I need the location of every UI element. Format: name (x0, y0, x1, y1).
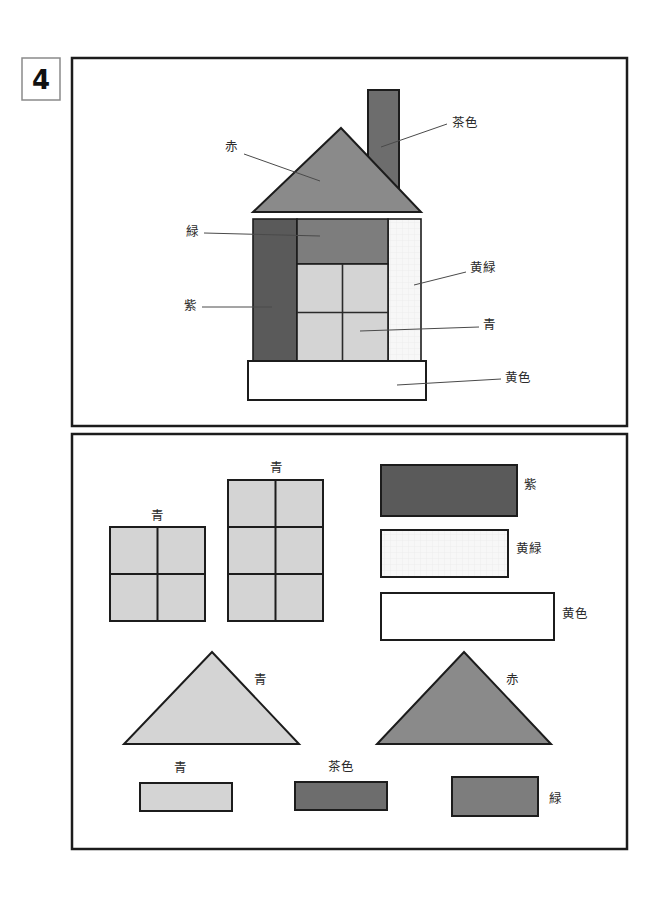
part-rect-purple (381, 465, 517, 516)
worksheet-canvas: 4 赤 (0, 0, 649, 906)
label-rect-green-small: 緑 (549, 791, 562, 806)
question-number-text: 4 (32, 65, 50, 95)
label-rect-purple: 紫 (524, 477, 537, 492)
part-rect-brown-small (295, 782, 387, 810)
label-rect-yellow: 黄色 (562, 606, 588, 621)
label-window-2x2-small: 青 (151, 508, 164, 523)
house-part-left-wall-purple (253, 219, 297, 361)
part-window-2x3-tall (228, 480, 323, 621)
house-part-right-wall-yellowgreen (388, 219, 421, 361)
label-brown: 茶色 (452, 115, 478, 130)
label-purple: 紫 (184, 298, 197, 313)
label-green: 緑 (186, 224, 199, 239)
label-triangle-blue: 青 (254, 672, 267, 687)
label-window-2x3-tall: 青 (270, 460, 283, 475)
question-number-box: 4 (22, 58, 60, 100)
label-yellowgreen: 黄緑 (470, 260, 496, 275)
house-part-upper-wall-green (297, 219, 388, 264)
label-rect-yellowgreen: 黄緑 (516, 541, 542, 556)
label-triangle-red: 赤 (506, 672, 519, 687)
house-part-base-yellow (248, 361, 426, 400)
label-rect-blue-small: 青 (174, 760, 187, 775)
label-yellow: 黄色 (505, 370, 531, 385)
worksheet-page: 4 赤 (0, 0, 649, 906)
label-rect-brown-small: 茶色 (328, 759, 354, 774)
part-window-2x2-small (110, 527, 205, 621)
part-rect-blue-small (140, 783, 232, 811)
part-rect-yellowgreen (381, 530, 508, 577)
part-rect-yellow (381, 593, 554, 640)
part-rect-green-small (452, 777, 538, 816)
label-red: 赤 (225, 139, 238, 154)
house-part-windows-blue (297, 264, 388, 361)
label-blue: 青 (483, 317, 496, 332)
